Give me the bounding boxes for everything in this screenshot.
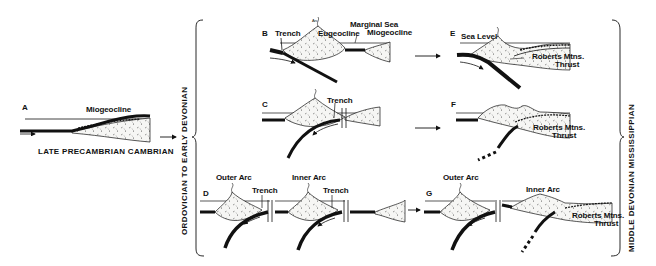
label-b-miogeocline: Miogeocline bbox=[367, 29, 412, 37]
panel-c bbox=[262, 89, 380, 158]
panel-letter-e: E bbox=[450, 30, 455, 38]
panel-a bbox=[20, 116, 176, 142]
period-middle-label: ORDOVICIAN TO EARLY DEVONIAN bbox=[180, 87, 189, 235]
label-b-arc: Arc bbox=[312, 19, 318, 23]
panel-letter-g: G bbox=[426, 190, 432, 198]
label-e-thrust-2: Thrust bbox=[555, 61, 579, 69]
panel-letter-c: C bbox=[262, 101, 268, 109]
label-f-thrust-2: Thrust bbox=[552, 132, 576, 140]
label-c-trench: Trench bbox=[327, 97, 353, 105]
label-e-sea-level: Sea Level bbox=[461, 33, 497, 41]
period-right-label: MIDDLE DEVONIAN MISSISSIPPIAN bbox=[627, 104, 636, 252]
period-left-label: LATE PRECAMBRIAN CAMBRIAN bbox=[38, 148, 174, 156]
label-d-outer-arc: Outer Arc bbox=[216, 174, 252, 182]
label-g-thrust-2: Thrust bbox=[594, 220, 618, 228]
label-g-inner-arc: Inner Arc bbox=[526, 186, 560, 194]
label-d-trench-2: Trench bbox=[323, 187, 349, 195]
label-b-trench: Trench bbox=[275, 30, 301, 38]
panel-letter-a: A bbox=[22, 104, 28, 112]
label-d-inner-arc: Inner Arc bbox=[292, 174, 326, 182]
panel-letter-d: D bbox=[203, 190, 209, 198]
label-b-eugeocline: Eugeocline bbox=[318, 30, 360, 38]
panel-letter-f: F bbox=[451, 101, 456, 109]
label-a-miogeocline: Miogeocline bbox=[86, 106, 131, 114]
brace-ordovician bbox=[192, 20, 204, 256]
panel-letter-b: B bbox=[262, 30, 268, 38]
label-g-outer-arc: Outer Arc bbox=[443, 174, 479, 182]
panel-d bbox=[200, 183, 405, 250]
label-d-trench-1: Trench bbox=[252, 187, 278, 195]
